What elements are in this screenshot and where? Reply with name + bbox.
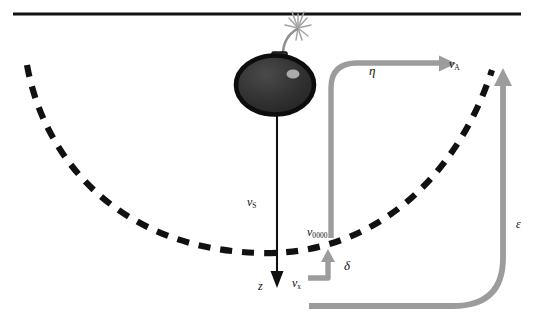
fuse-icon bbox=[283, 29, 297, 54]
label-v-a: vA bbox=[449, 58, 460, 72]
label-v-x: vx bbox=[292, 277, 301, 291]
label-v-s: vS bbox=[247, 196, 257, 210]
label-eta: η bbox=[369, 64, 375, 77]
label-delta: δ bbox=[344, 259, 350, 272]
bomb-icon bbox=[236, 12, 314, 115]
label-epsilon: ε bbox=[516, 218, 521, 230]
label-z: z bbox=[258, 280, 263, 292]
epsilon-flow-arrow bbox=[309, 68, 512, 306]
label-v-zero: v0000 bbox=[307, 226, 328, 240]
vertical-velocity-arrow bbox=[271, 116, 284, 288]
physics-diagram: vS z η vA v0000 δ vx ε bbox=[0, 0, 534, 324]
delta-flow-arrow bbox=[308, 249, 335, 278]
bomb-highlight bbox=[287, 69, 300, 78]
bomb-body bbox=[236, 56, 314, 115]
diagram-canvas bbox=[0, 0, 534, 324]
